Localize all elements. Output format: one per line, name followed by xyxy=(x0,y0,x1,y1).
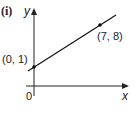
y-axis-arrow-icon xyxy=(31,8,37,15)
point-7-8 xyxy=(98,23,102,27)
origin-label: 0 xyxy=(26,90,32,102)
y-axis-label: y xyxy=(23,4,31,18)
line-graph-diagram: (i) y x 0 (0, 1) (7, 8) xyxy=(0,0,136,115)
graph-canvas: (i) y x 0 (0, 1) (7, 8) xyxy=(0,0,136,115)
point-0-1 xyxy=(32,65,36,69)
line xyxy=(28,15,116,71)
point-label-7-8: (7, 8) xyxy=(97,30,123,42)
point-label-0-1: (0, 1) xyxy=(2,53,28,65)
x-axis-label: x xyxy=(121,89,129,103)
figure-label: (i) xyxy=(1,4,12,18)
